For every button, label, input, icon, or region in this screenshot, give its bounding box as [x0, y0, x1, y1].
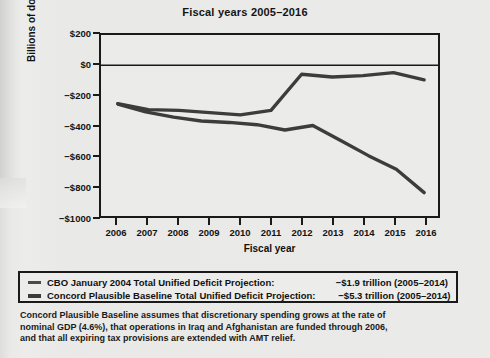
x-axis-tick-mark	[115, 218, 117, 225]
x-axis-tick-label: 2006	[105, 227, 126, 238]
y-axis-tick-label: −$400	[64, 120, 91, 131]
footnote-line-2: nominal GDP (4.6%), that operations in I…	[20, 322, 450, 334]
legend-swatch-concord	[28, 294, 41, 298]
x-axis-tick-mark	[363, 218, 365, 225]
x-axis-tick-label: 2013	[322, 227, 343, 238]
y-axis-tick-label: $0	[80, 58, 91, 69]
x-axis-tick-mark	[394, 218, 396, 225]
series-line-cbo	[118, 73, 424, 115]
series-line-concord	[118, 104, 424, 193]
x-axis-tick-label: 2007	[136, 227, 157, 238]
plot-area	[99, 33, 440, 218]
chart-legend: CBO January 2004 Total Unified Deficit P…	[18, 271, 458, 303]
x-axis-tick-label: 2009	[198, 227, 219, 238]
y-axis-tick-label: −$600	[64, 151, 91, 162]
x-axis-label: Fiscal year	[99, 243, 440, 254]
legend-row: Concord Plausible Baseline Total Unified…	[28, 289, 448, 302]
footnote-line-1: Concord Plausible Baseline assumes that …	[20, 310, 450, 322]
y-axis-tick-label: −$1000	[59, 213, 91, 224]
x-axis-tick-label: 2011	[261, 227, 282, 238]
legend-value-cbo: −$1.9 trillion (2005–2014)	[313, 276, 448, 289]
y-axis-tick-label: −$200	[64, 89, 91, 100]
x-axis-tick-mark	[177, 218, 179, 225]
legend-swatch-cbo	[28, 281, 41, 284]
legend-label-concord: Concord Plausible Baseline Total Unified…	[47, 289, 316, 302]
x-axis-tick-label: 2010	[229, 227, 250, 238]
y-axis: $200$0−$200−$400−$600−$800−$1000	[60, 25, 100, 225]
x-axis-tick-mark	[425, 218, 427, 225]
y-axis-tick-label: $200	[70, 28, 91, 39]
x-axis-tick-mark	[239, 218, 241, 225]
footnote-line-3: and that all expiring tax provisions are…	[20, 333, 450, 345]
x-axis-tick-label: 2016	[415, 227, 436, 238]
x-axis-tick-mark	[208, 218, 210, 225]
x-axis-tick-mark	[301, 218, 303, 225]
x-axis-tick-mark	[146, 218, 148, 225]
x-axis-tick-label: 2015	[384, 227, 405, 238]
chart-title: Fiscal years 2005–2016	[0, 6, 490, 18]
footnote: Concord Plausible Baseline assumes that …	[20, 310, 450, 345]
x-axis-tick-label: 2008	[167, 227, 188, 238]
legend-label-cbo: CBO January 2004 Total Unified Deficit P…	[47, 276, 274, 289]
x-axis-tick-mark	[270, 218, 272, 225]
x-axis-tick-label: 2012	[291, 227, 312, 238]
x-axis-tick-label: 2014	[353, 227, 374, 238]
legend-row: CBO January 2004 Total Unified Deficit P…	[28, 276, 448, 289]
x-axis-tick-mark	[332, 218, 334, 225]
y-axis-label: Billions of dollars	[26, 0, 37, 62]
chart-lines	[101, 35, 438, 216]
y-axis-tick-label: −$800	[64, 182, 91, 193]
legend-value-concord: −$5.3 trillion (2005–2014)	[316, 289, 451, 302]
